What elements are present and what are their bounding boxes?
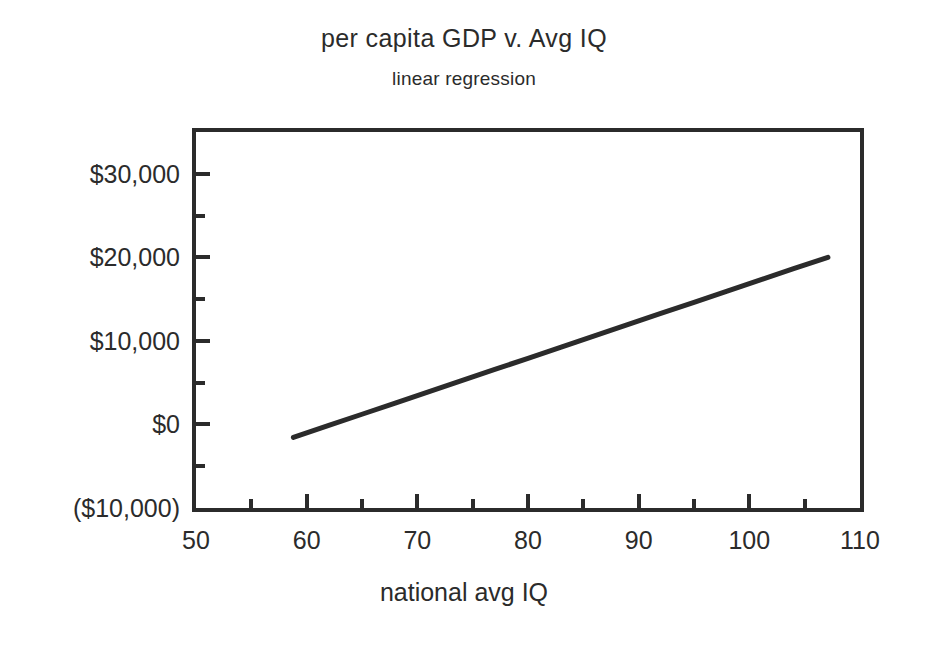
y-tick-label: ($10,000) (12, 494, 180, 523)
regression-line (293, 257, 828, 437)
regression-line-series (196, 132, 860, 508)
x-tick-minor (803, 499, 807, 508)
x-tick-minor (692, 499, 696, 508)
y-tick-major (196, 172, 210, 176)
y-tick-minor (196, 464, 205, 468)
x-axis-title: national avg IQ (0, 578, 928, 607)
x-tick-label: 80 (483, 526, 573, 555)
x-tick-major (305, 494, 309, 508)
x-tick-minor (581, 499, 585, 508)
x-tick-major (526, 494, 530, 508)
x-tick-major (637, 494, 641, 508)
chart-title: per capita GDP v. Avg IQ (0, 24, 928, 53)
x-tick-label: 110 (815, 526, 905, 555)
x-tick-label: 90 (594, 526, 684, 555)
y-tick-minor (196, 297, 205, 301)
plot-area (192, 128, 864, 512)
chart-page: per capita GDP v. Avg IQ linear regressi… (0, 0, 928, 653)
x-tick-label: 100 (704, 526, 794, 555)
plot-inner (196, 132, 860, 508)
y-tick-major (196, 255, 210, 259)
x-tick-minor (360, 499, 364, 508)
y-tick-minor (196, 214, 205, 218)
x-tick-major (747, 494, 751, 508)
chart-subtitle: linear regression (0, 68, 928, 90)
y-tick-label: $10,000 (12, 326, 180, 355)
y-tick-label: $30,000 (12, 159, 180, 188)
x-tick-major (415, 494, 419, 508)
y-tick-major (196, 339, 210, 343)
y-tick-label: $0 (12, 410, 180, 439)
x-tick-label: 50 (151, 526, 241, 555)
x-tick-label: 60 (262, 526, 352, 555)
x-tick-minor (249, 499, 253, 508)
x-tick-minor (471, 499, 475, 508)
x-tick-label: 70 (372, 526, 462, 555)
y-tick-label: $20,000 (12, 243, 180, 272)
y-tick-major (196, 422, 210, 426)
y-tick-minor (196, 381, 205, 385)
